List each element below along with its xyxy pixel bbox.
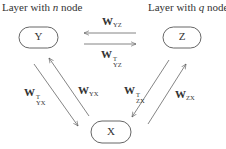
node-z-label: Z [163, 30, 201, 42]
edge-subscript: YX [36, 100, 45, 106]
edge-label-w-yx: WYX [78, 84, 98, 97]
edge-symbol: W [175, 88, 186, 100]
edge-symbol: W [78, 84, 89, 96]
edge-subscript: ZX [136, 98, 145, 104]
layer-label-left-prefix: Layer with [2, 1, 53, 13]
edge-label-w-zx-t: WTZX [124, 84, 145, 104]
edge-symbol: W [124, 84, 135, 96]
layer-label-right-prefix: Layer with [148, 1, 199, 13]
edge-symbol: W [24, 86, 35, 98]
edge-symbol: W [102, 15, 113, 27]
edge-label-w-zx: WZX [175, 88, 195, 101]
layer-label-right: Layer with q node [148, 1, 226, 13]
layer-label-left-suffix: node [58, 1, 82, 13]
edge-subscript: YZ [113, 62, 122, 68]
layer-label-left: Layer with n node [2, 1, 82, 13]
edge-subscript: YX [89, 90, 98, 97]
edge-label-w-yz: WYZ [102, 15, 122, 28]
node-y-label: Y [19, 30, 58, 42]
node-x-label: X [91, 125, 131, 137]
layer-label-right-suffix: node [204, 1, 226, 13]
edge-subscript: ZX [186, 94, 195, 101]
edge-symbol: W [101, 48, 112, 60]
edge-label-w-yx-t: WTYX [24, 86, 45, 106]
edge-subscript: YZ [113, 21, 122, 28]
edge-label-w-yz-t: WTYZ [101, 48, 122, 68]
